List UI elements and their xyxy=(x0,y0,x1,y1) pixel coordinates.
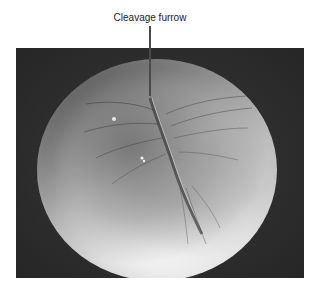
micrograph-photo xyxy=(16,48,304,278)
annotation-leader-line xyxy=(149,26,151,96)
cleavage-furrow-lines xyxy=(16,48,304,278)
annotation-label: Cleavage furrow xyxy=(0,12,300,23)
